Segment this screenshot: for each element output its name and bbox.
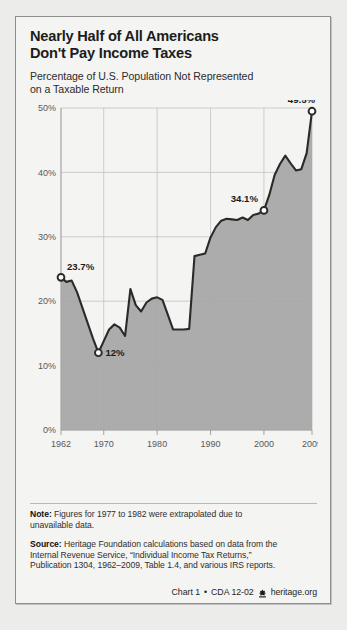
- chart-plot: 0%10%20%30%40%50% 1962197019801990200020…: [30, 100, 318, 460]
- y-tick-label-10: 10%: [38, 361, 56, 371]
- data-point-marker: [58, 274, 65, 281]
- note-text: Note: Figures for 1977 to 1982 were extr…: [30, 509, 317, 530]
- chart-x-axis-labels: 196219701980199020002009: [51, 439, 318, 449]
- area-fill-path: [61, 111, 312, 430]
- credit-separator: •: [204, 587, 207, 597]
- chart-subtitle: Percentage of U.S. Population Not Repres…: [30, 70, 316, 96]
- x-tick-label-2009: 2009: [302, 439, 318, 449]
- x-tick-label-1990: 1990: [201, 439, 221, 449]
- source-line-2: Internal Revenue Service, “Individual In…: [30, 550, 317, 561]
- chart-credit: Chart 1 • CDA 12-02 heritage.org: [172, 587, 317, 597]
- y-tick-label-40: 40%: [38, 168, 56, 178]
- data-point-label: 12%: [105, 347, 125, 358]
- page-title: Nearly Half of All Americans Don't Pay I…: [30, 28, 316, 62]
- subtitle-line-1: Percentage of U.S. Population Not Repres…: [30, 70, 316, 83]
- x-tick-label-1980: 1980: [147, 439, 167, 449]
- chart-card: Nearly Half of All Americans Don't Pay I…: [15, 16, 331, 604]
- y-tick-label-50: 50%: [38, 103, 56, 113]
- note-line-2: unavailable data.: [30, 520, 317, 531]
- x-tick-label-2000: 2000: [254, 439, 274, 449]
- y-tick-label-30: 30%: [38, 232, 56, 242]
- data-point-label: 34.1%: [231, 193, 259, 204]
- data-point-marker: [261, 207, 268, 214]
- source-label: Source:: [30, 539, 62, 549]
- chart-number: Chart 1: [172, 587, 201, 597]
- data-point-marker: [309, 108, 316, 115]
- heritage-site-label[interactable]: heritage.org: [271, 587, 317, 597]
- data-point-marker: [95, 349, 102, 356]
- title-line-1: Nearly Half of All Americans: [30, 28, 316, 45]
- note-body-1: Figures for 1977 to 1982 were extrapolat…: [52, 509, 243, 519]
- source-text: Source: Heritage Foundation calculations…: [30, 539, 317, 571]
- source-line-3: Publication 1304, 1962–2009, Table 1.4, …: [30, 560, 317, 571]
- footer-divider: [30, 503, 317, 504]
- title-line-2: Don't Pay Income Taxes: [30, 45, 316, 62]
- data-point-label: 49.5%: [288, 100, 316, 105]
- page-root: Nearly Half of All Americans Don't Pay I…: [0, 0, 347, 630]
- x-tick-label-1970: 1970: [94, 439, 114, 449]
- chart-y-axis-labels: 0%10%20%30%40%50%: [38, 103, 56, 435]
- chart-area-fill: [61, 111, 312, 430]
- cda-number: CDA 12-02: [211, 587, 254, 597]
- subtitle-line-2: on a Taxable Return: [30, 83, 316, 96]
- x-tick-label-1962: 1962: [51, 439, 71, 449]
- y-tick-label-0: 0%: [43, 425, 56, 435]
- footnotes: Note: Figures for 1977 to 1982 were extr…: [30, 509, 317, 580]
- note-line-1: Note: Figures for 1977 to 1982 were extr…: [30, 509, 317, 520]
- data-point-label: 23.7%: [67, 261, 95, 272]
- source-body-1: Heritage Foundation calculations based o…: [62, 539, 278, 549]
- y-tick-label-20: 20%: [38, 296, 56, 306]
- chart-svg: 0%10%20%30%40%50% 1962197019801990200020…: [30, 100, 318, 460]
- note-label: Note:: [30, 509, 52, 519]
- source-line-1: Source: Heritage Foundation calculations…: [30, 539, 317, 550]
- heritage-foundation-mark-icon: [258, 589, 267, 598]
